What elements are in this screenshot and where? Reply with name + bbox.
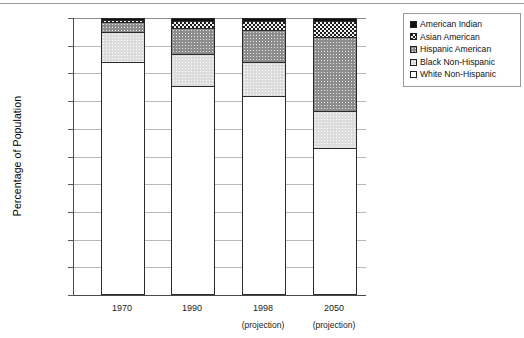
bar-segment-1998-asian-american[interactable] (242, 21, 286, 31)
x-axis-label-1998: 1998 (223, 303, 303, 313)
checker-swatch-icon (410, 33, 417, 40)
legend-item-asian-american[interactable]: Asian American (410, 31, 516, 44)
legend-item-white-non-hispanic[interactable]: White Non-Hispanic (410, 68, 516, 81)
bar-segment-2050-black-non-hispanic[interactable] (313, 111, 357, 148)
bar-segment-1998-american-indian[interactable] (242, 18, 286, 21)
bar-1998[interactable] (242, 18, 286, 295)
bar-segment-1990-asian-american[interactable] (171, 21, 215, 28)
legend-item-label: Asian American (420, 33, 480, 42)
bar-segment-1970-american-indian[interactable] (101, 18, 145, 20)
white-swatch-icon (410, 71, 417, 78)
bar-1990[interactable] (171, 18, 215, 295)
solid-black-swatch-icon (410, 21, 417, 28)
bar-segment-2050-asian-american[interactable] (313, 21, 357, 38)
bar-segment-1970-asian-american[interactable] (101, 20, 145, 22)
bar-1970[interactable] (101, 18, 145, 295)
bar-segment-2050-hispanic-american[interactable] (313, 37, 357, 110)
legend-item-american-indian[interactable]: American Indian (410, 18, 516, 31)
bar-segment-1990-black-non-hispanic[interactable] (171, 54, 215, 86)
bar-segment-1990-white-non-hispanic[interactable] (171, 86, 215, 295)
legend-item-label: American Indian (420, 20, 482, 29)
bar-segment-1970-black-non-hispanic[interactable] (101, 32, 145, 62)
bar-segment-1998-white-non-hispanic[interactable] (242, 96, 286, 295)
light-dot-swatch-icon (410, 59, 417, 66)
x-axis-label-1970: 1970 (82, 303, 162, 313)
bar-2050[interactable] (313, 18, 357, 295)
dark-dot-swatch-icon (410, 46, 417, 53)
x-axis-label-2050: 2050 (294, 303, 374, 313)
legend-item-hispanic-american[interactable]: Hispanic American (410, 43, 516, 56)
bar-segment-1998-black-non-hispanic[interactable] (242, 62, 286, 95)
bar-segment-2050-american-indian[interactable] (313, 18, 357, 21)
chart-legend: American IndianAsian AmericanHispanic Am… (403, 13, 521, 87)
legend-item-black-non-hispanic[interactable]: Black Non-Hispanic (410, 56, 516, 69)
bar-segment-1990-hispanic-american[interactable] (171, 28, 215, 54)
bar-segment-2050-white-non-hispanic[interactable] (313, 148, 357, 295)
legend-item-label: Black Non-Hispanic (420, 58, 495, 67)
x-axis-label-1990: 1990 (152, 303, 232, 313)
bar-segment-1970-hispanic-american[interactable] (101, 22, 145, 32)
plot-area (73, 18, 366, 296)
stacked-bar-chart: Percentage of Population 100%90%80%70%60… (0, 0, 524, 338)
y-axis-title: Percentage of Population (11, 56, 23, 256)
x-axis-sublabel-2050: (projection) (289, 320, 379, 330)
bar-segment-1970-white-non-hispanic[interactable] (101, 62, 145, 295)
legend-item-label: White Non-Hispanic (420, 70, 496, 79)
bar-segment-1990-american-indian[interactable] (171, 18, 215, 21)
bar-segment-1998-hispanic-american[interactable] (242, 30, 286, 62)
legend-item-label: Hispanic American (420, 45, 491, 54)
